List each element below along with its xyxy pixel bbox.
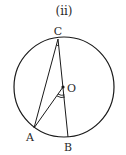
label-c: C — [54, 25, 62, 38]
radius-oa — [34, 87, 63, 128]
angle-mark-c — [56, 45, 59, 46]
label-a: A — [25, 131, 35, 144]
chord-ca — [34, 39, 58, 128]
figure-title: (ii) — [55, 4, 72, 18]
label-b: B — [64, 141, 72, 154]
circle-diagram: (ii) C O A B — [0, 0, 126, 155]
label-o: O — [67, 82, 76, 95]
center-point-o — [61, 85, 64, 88]
